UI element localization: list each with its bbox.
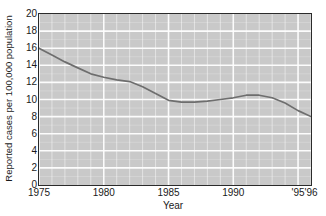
y-axis-tick-label: 2 [15, 163, 37, 173]
y-axis-tick-label: 12 [15, 77, 37, 87]
y-axis-tick-label: 20 [15, 9, 37, 19]
y-axis-tick-label: 4 [15, 146, 37, 156]
chart-container: Reported cases per 100,000 population 20… [0, 0, 326, 216]
y-axis-tick-label: 8 [15, 112, 37, 122]
data-line-series [39, 14, 311, 185]
y-axis-tick-label: 14 [15, 60, 37, 70]
x-axis-tick-label: 1975 [28, 187, 50, 199]
y-axis-tick-label: 18 [15, 26, 37, 36]
y-axis-title-text: Reported cases per 100,000 population [3, 15, 14, 181]
x-axis-tick-label: '96 [304, 187, 317, 199]
y-axis-tick-label: 16 [15, 43, 37, 53]
x-axis-title-text: Year [163, 200, 183, 211]
x-axis-tick-label: '95 [292, 187, 305, 199]
data-line-path [39, 48, 311, 116]
plot-area [38, 13, 312, 186]
x-axis-tick-label: 1985 [157, 187, 179, 199]
y-axis-tick-label: 6 [15, 129, 37, 139]
y-axis-title: Reported cases per 100,000 population [0, 0, 16, 196]
x-axis-tick-label: 1990 [222, 187, 244, 199]
x-axis-tick-label: 1980 [93, 187, 115, 199]
x-axis-title: Year [0, 200, 326, 211]
y-axis-tick-labels: 20181614121086420 [15, 0, 37, 216]
y-axis-tick-label: 10 [15, 95, 37, 105]
